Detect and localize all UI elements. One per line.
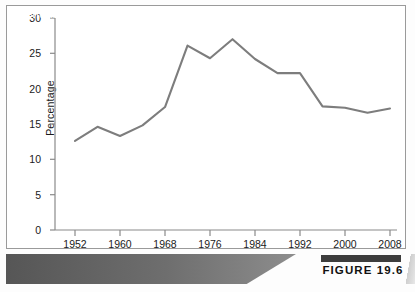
x-tick-label: 1976	[190, 238, 230, 250]
caption-band	[6, 254, 296, 284]
line-chart-plot	[7, 6, 405, 248]
x-tick-label: 1968	[145, 238, 185, 250]
chart-frame: Percentage	[6, 5, 406, 249]
y-tick-label: 5	[19, 189, 41, 201]
x-tick-label: 1952	[55, 238, 95, 250]
figure-container: Percentage	[0, 0, 415, 292]
axis-lines	[55, 18, 397, 230]
y-tick-label: 0	[19, 224, 41, 236]
y-tick-label: 20	[19, 83, 41, 95]
data-series-line	[75, 39, 390, 141]
x-tick-label: 2008	[370, 238, 410, 250]
figure-number-badge: FIGURE 19.6	[317, 254, 409, 284]
figure-caption: Trend in Split-Ticket Voting, 1952–2008	[14, 7, 233, 21]
y-tick-label: 25	[19, 47, 41, 59]
badge-slash-decoration	[403, 254, 415, 284]
x-axis-ticks	[75, 230, 390, 236]
x-tick-label: 1984	[235, 238, 275, 250]
y-tick-label: 10	[19, 153, 41, 165]
x-tick-label: 2000	[325, 238, 365, 250]
y-axis-ticks	[50, 18, 55, 230]
x-tick-label: 1992	[280, 238, 320, 250]
figure-number-label: FIGURE 19.6	[317, 264, 409, 276]
x-tick-label: 1960	[100, 238, 140, 250]
y-tick-label: 15	[19, 118, 41, 130]
badge-accent-bar	[321, 255, 401, 262]
